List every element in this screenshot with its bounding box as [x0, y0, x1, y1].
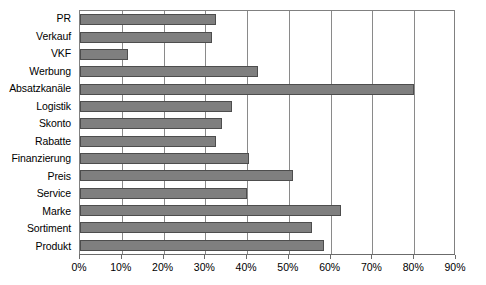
bar-row [80, 66, 454, 77]
bar [80, 153, 249, 164]
x-axis-tick-label: 80% [403, 261, 424, 273]
bar [80, 240, 324, 251]
bar [80, 14, 216, 25]
plot-area [79, 10, 455, 255]
x-axis-tick [163, 255, 164, 259]
category-label: Service [0, 188, 75, 199]
category-label: Sortiment [0, 223, 75, 234]
bar [80, 118, 222, 129]
x-axis-line [79, 254, 455, 255]
bar-row [80, 118, 454, 129]
x-axis-tick [246, 255, 247, 259]
category-label: Skonto [0, 118, 75, 129]
category-label: Werbung [0, 66, 75, 77]
x-axis-tick-label: 10% [110, 261, 131, 273]
x-axis-tick [455, 255, 456, 259]
bar-row [80, 205, 454, 216]
bar [80, 84, 414, 95]
category-label: Produkt [0, 241, 75, 252]
bar [80, 101, 232, 112]
category-axis-labels: PRVerkaufVKFWerbungAbsatzkanäleLogistikS… [0, 10, 75, 255]
bar-row [80, 136, 454, 147]
bar-row [80, 153, 454, 164]
bar-row [80, 170, 454, 181]
bar-row [80, 222, 454, 233]
x-axis-tick-label: 30% [194, 261, 215, 273]
category-label: Verkauf [0, 31, 75, 42]
x-axis-tick [413, 255, 414, 259]
x-axis-tick-label: 50% [277, 261, 298, 273]
x-axis-tick [330, 255, 331, 259]
bar [80, 136, 216, 147]
x-axis-tick [204, 255, 205, 259]
bars-container [80, 11, 454, 254]
bar [80, 170, 293, 181]
x-axis-tick-label: 70% [361, 261, 382, 273]
bar-row [80, 84, 454, 95]
bar-chart: PRVerkaufVKFWerbungAbsatzkanäleLogistikS… [0, 0, 486, 285]
x-axis-tick [288, 255, 289, 259]
x-axis-tick [121, 255, 122, 259]
bar [80, 188, 247, 199]
bar [80, 205, 341, 216]
bar-row [80, 240, 454, 251]
category-label: VKF [0, 48, 75, 59]
category-label: Absatzkanäle [0, 83, 75, 94]
x-axis-tick [79, 255, 80, 259]
bar-row [80, 101, 454, 112]
bar-row [80, 49, 454, 60]
bar [80, 49, 128, 60]
x-axis-tick-label: 60% [319, 261, 340, 273]
x-axis-tick-label: 40% [236, 261, 257, 273]
bar [80, 32, 212, 43]
category-label: Marke [0, 206, 75, 217]
category-label: Logistik [0, 101, 75, 112]
category-label: PR [0, 13, 75, 24]
x-axis-tick-label: 90% [444, 261, 465, 273]
x-axis-tick-label: 20% [152, 261, 173, 273]
bar-row [80, 188, 454, 199]
category-label: Rabatte [0, 136, 75, 147]
bar [80, 222, 312, 233]
bar-row [80, 14, 454, 25]
bar-row [80, 32, 454, 43]
x-axis-tick [371, 255, 372, 259]
bar [80, 66, 258, 77]
category-label: Preis [0, 171, 75, 182]
category-label: Finanzierung [0, 153, 75, 164]
x-axis-tick-label: 0% [71, 261, 86, 273]
